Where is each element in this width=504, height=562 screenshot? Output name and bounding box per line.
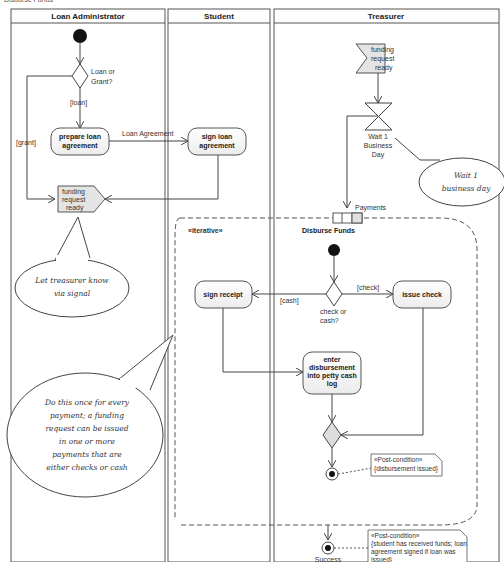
time-event-label: Business	[364, 142, 393, 149]
callout-text: payment; a funding	[50, 411, 124, 420]
guard-grant: [grant]	[16, 139, 36, 147]
guard-check: [check]	[357, 284, 379, 292]
callout-text: Let treasurer know	[34, 276, 109, 285]
final-node-label: Success	[315, 556, 342, 562]
activity-label: into petty cash	[307, 372, 356, 380]
guard-cash: [cash]	[280, 297, 299, 305]
merge-node	[323, 422, 341, 448]
callout-text: via signal	[54, 289, 91, 298]
time-event-label: Wait 1	[368, 133, 388, 140]
note-text: {student has received funds; loan	[371, 540, 467, 548]
activity-label: disbursement	[309, 364, 356, 371]
signal-label: request	[62, 196, 85, 204]
activity-label: agreement	[62, 142, 98, 150]
time-event-label: Day	[372, 151, 385, 159]
signal-label: request	[371, 55, 394, 63]
callout-let-treasurer-know: Let treasurer know via signal	[15, 217, 129, 317]
signal-label: ready	[375, 64, 393, 72]
activity-label: log	[327, 380, 338, 388]
object-flow-label: Loan Agreement	[122, 130, 173, 138]
region-initial-node	[328, 244, 340, 256]
decision-label: cash?	[320, 317, 339, 324]
callout-text: in one or more	[59, 437, 115, 446]
callout-text: Do this once for every	[44, 398, 130, 407]
note-text: «Post-condition»	[371, 532, 420, 539]
note-text: «Post-condition»	[374, 456, 423, 463]
signal-label: funding	[62, 188, 85, 196]
activity-label: agreement	[199, 142, 235, 150]
note-text: agreement signed if loan was	[371, 548, 456, 556]
callout-text: either checks or cash	[46, 463, 128, 472]
decision-loan-or-grant	[72, 64, 88, 88]
callout-iterative: Do this once for every payment; a fundin…	[7, 335, 173, 497]
note-text: {disbursement issued}	[374, 465, 439, 473]
lane-title: Loan Administrator	[51, 12, 124, 21]
activity-label: enter	[323, 356, 340, 363]
signal-label: funding	[371, 46, 394, 54]
guard-loan: [loan]	[70, 99, 87, 107]
activity-label: prepare loan	[59, 133, 101, 141]
decision-label: check or	[320, 308, 347, 315]
pin-label: Payments	[355, 204, 387, 212]
lane-title: Student	[204, 12, 234, 21]
region-name: Disburse Funds	[302, 227, 355, 234]
callout-text: Wait 1	[454, 171, 478, 180]
activity-label: issue check	[402, 291, 442, 298]
initial-node	[73, 29, 87, 43]
activity-diagram: Loan Administrator Student Treasurer Loa…	[0, 0, 504, 562]
lane-title: Treasurer	[368, 12, 404, 21]
decision-label: Loan or	[91, 68, 115, 75]
callout-wait-business-day: Wait 1 business day	[395, 138, 504, 206]
activity-label: sign loan	[202, 133, 233, 141]
callout-text: request can be issued	[45, 424, 128, 433]
lane-treasurer: Treasurer	[274, 9, 499, 562]
note-text: issued}	[371, 556, 393, 562]
callout-text: payments that are	[52, 450, 122, 459]
decision-label: Grant?	[91, 78, 113, 85]
decision-check-or-cash	[326, 282, 342, 306]
callout-text: business day	[442, 184, 492, 193]
region-stereotype: «iterative»	[188, 227, 223, 234]
signal-label: ready	[66, 204, 84, 212]
activity-label: sign receipt	[203, 291, 243, 299]
